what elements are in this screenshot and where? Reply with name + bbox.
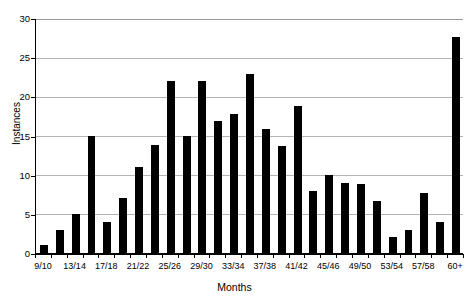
bar-57/58 [420, 193, 428, 253]
bar-55/56 [405, 230, 413, 253]
x-tick-mark-9 [178, 254, 179, 258]
x-tick-mark-5 [114, 254, 115, 258]
bar-13/14 [72, 214, 80, 253]
x-tick-mark-7 [146, 254, 147, 258]
bar-45/46 [325, 175, 333, 253]
x-tick-mark-16 [289, 254, 290, 258]
x-tick-mark-18 [320, 254, 321, 258]
bar-25/26 [167, 81, 175, 253]
x-tick-mark-4 [98, 254, 99, 258]
x-tick-mark-21 [368, 254, 369, 258]
y-tick-label-20: 20 [6, 92, 30, 101]
x-tick-mark-3 [83, 254, 84, 258]
y-tick-mark-20 [31, 97, 35, 98]
x-tick-label-57/58: 57/58 [412, 261, 435, 272]
x-tick-mark-27 [463, 254, 464, 258]
bar-chart-figure: Instances 9/1013/1417/1821/2225/2629/303… [0, 0, 469, 299]
x-axis-title: Months [0, 281, 469, 293]
y-tick-label-15: 15 [6, 132, 30, 141]
x-tick-mark-17 [304, 254, 305, 258]
x-tick-mark-6 [130, 254, 131, 258]
x-tick-label-9/10: 9/10 [34, 261, 52, 272]
bar-21/22 [135, 167, 143, 253]
bar-43/44 [309, 191, 317, 253]
x-tick-mark-11 [209, 254, 210, 258]
x-tick-mark-1 [51, 254, 52, 258]
x-tick-label-45/46: 45/46 [317, 261, 340, 272]
bar-9/10 [40, 245, 48, 253]
x-tick-mark-26 [447, 254, 448, 258]
bar-60+ [452, 37, 460, 253]
x-tick-label-21/22: 21/22 [127, 261, 150, 272]
bar-29/30 [198, 81, 206, 253]
y-tick-mark-25 [31, 58, 35, 59]
x-tick-label-37/38: 37/38 [254, 261, 277, 272]
y-tick-mark-10 [31, 176, 35, 177]
x-tick-mark-0 [35, 254, 36, 258]
bars-group [36, 19, 463, 253]
x-tick-label-33/34: 33/34 [222, 261, 245, 272]
bar-49/50 [357, 184, 365, 253]
y-tick-mark-15 [31, 137, 35, 138]
bar-11/12 [56, 230, 64, 254]
y-tick-label-0: 0 [6, 249, 30, 258]
x-axis-tick-marks [35, 254, 463, 260]
x-tick-label-60+: 60+ [447, 261, 462, 272]
y-tick-label-10: 10 [6, 171, 30, 180]
bar-37/38 [262, 129, 270, 253]
y-tick-label-30: 30 [6, 14, 30, 23]
x-tick-label-13/14: 13/14 [63, 261, 86, 272]
bar-19/20 [119, 198, 127, 253]
bar-51/52 [373, 201, 381, 253]
x-tick-label-29/30: 29/30 [190, 261, 213, 272]
y-tick-mark-0 [31, 254, 35, 255]
bar-53/54 [389, 237, 397, 253]
bar-41/42 [294, 106, 302, 253]
y-tick-label-25: 25 [6, 53, 30, 62]
x-axis-tick-labels: 9/1013/1417/1821/2225/2629/3033/3437/384… [35, 261, 463, 275]
x-tick-mark-25 [431, 254, 432, 258]
x-tick-mark-23 [400, 254, 401, 258]
bar-31/32 [214, 121, 222, 253]
y-tick-label-5: 5 [6, 210, 30, 219]
plot-area [35, 19, 463, 254]
x-tick-mark-20 [352, 254, 353, 258]
bar-17/18 [103, 222, 111, 253]
x-tick-mark-2 [67, 254, 68, 258]
x-tick-label-25/26: 25/26 [158, 261, 181, 272]
x-tick-mark-10 [194, 254, 195, 258]
bar-15/16 [88, 136, 96, 254]
x-tick-mark-13 [241, 254, 242, 258]
bar-59/60 [436, 222, 444, 253]
x-tick-mark-19 [336, 254, 337, 258]
bar-33/34 [230, 114, 238, 253]
bar-47/48 [341, 183, 349, 254]
x-tick-mark-22 [384, 254, 385, 258]
bar-27/28 [183, 136, 191, 253]
x-tick-label-41/42: 41/42 [285, 261, 308, 272]
clipped-caption-strip [0, 0, 469, 7]
bar-35/36 [246, 74, 254, 253]
bar-23/24 [151, 145, 159, 253]
x-tick-mark-8 [162, 254, 163, 258]
y-tick-mark-5 [31, 215, 35, 216]
x-tick-label-53/54: 53/54 [380, 261, 403, 272]
y-tick-mark-30 [31, 19, 35, 20]
x-tick-mark-14 [257, 254, 258, 258]
x-tick-mark-12 [225, 254, 226, 258]
x-tick-label-17/18: 17/18 [95, 261, 118, 272]
x-tick-mark-15 [273, 254, 274, 258]
x-tick-label-49/50: 49/50 [349, 261, 372, 272]
bar-39/40 [278, 146, 286, 253]
x-tick-mark-24 [415, 254, 416, 258]
